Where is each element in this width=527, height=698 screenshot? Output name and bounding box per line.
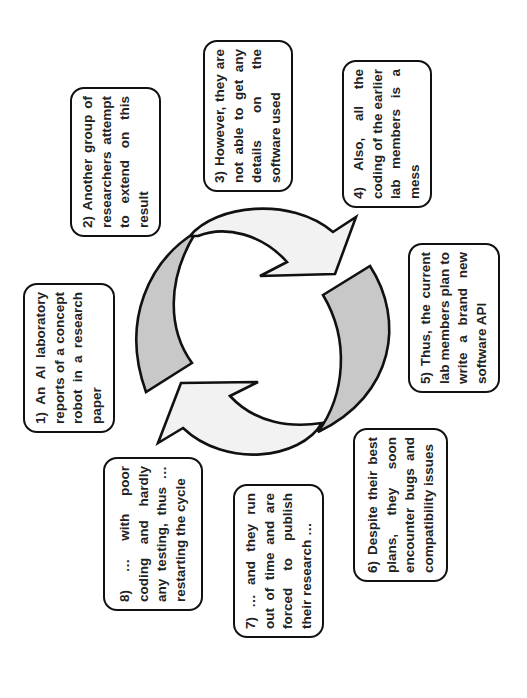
step-4-text: 4) Also, all the coding of the earlier l… xyxy=(350,60,424,208)
step-1-text: 1) An AI laboratory reports of a concept… xyxy=(32,283,106,433)
step-2-box: 2) Another group of researchers attempt … xyxy=(70,87,161,237)
step-8-text: 8) … with poor coding and hardly any tes… xyxy=(116,457,190,611)
step-2-text: 2) Another group of researchers attempt … xyxy=(79,87,153,237)
step-7-box: 7) … and they run out of time and are fo… xyxy=(233,484,324,638)
step-6-box: 6) Despite their best plans, they soon e… xyxy=(353,428,448,582)
step-7-text: 7) … and they run out of time and are fo… xyxy=(242,484,316,638)
bottom-arrow-shape xyxy=(158,382,322,455)
step-1-box: 1) An AI laboratory reports of a concept… xyxy=(23,283,115,433)
step-3-text: 3) However, they are not able to get any… xyxy=(211,40,285,192)
step-5-box: 5) Thus, the current lab members plan to… xyxy=(408,243,500,393)
step-3-box: 3) However, they are not able to get any… xyxy=(203,40,293,192)
step-5-text: 5) Thus, the current lab members plan to… xyxy=(417,243,491,393)
top-arrow-shape xyxy=(190,209,356,276)
right-arrow-shape xyxy=(318,266,389,432)
step-6-text: 6) Despite their best plans, they soon e… xyxy=(364,428,438,582)
cycle-diagram: 1) An AI laboratory reports of a concept… xyxy=(0,0,527,698)
step-4-box: 4) Also, all the coding of the earlier l… xyxy=(342,60,432,208)
step-8-box: 8) … with poor coding and hardly any tes… xyxy=(103,457,203,611)
left-arrow-shape xyxy=(136,232,196,392)
